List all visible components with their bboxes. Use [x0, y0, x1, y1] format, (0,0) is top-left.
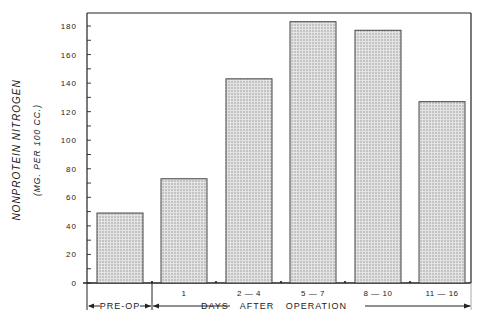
bar-2 — [226, 79, 272, 283]
y-tick-label: 120 — [61, 108, 77, 117]
x-category-label: 2 — 4 — [237, 289, 261, 298]
y-tick-label: 160 — [61, 51, 77, 60]
bar-0 — [97, 213, 143, 283]
bar-5 — [419, 102, 465, 283]
bar-4 — [355, 30, 401, 283]
x-tick-mark — [151, 281, 153, 283]
x-category-label: 5 — 7 — [301, 289, 325, 298]
x-tick-mark — [280, 281, 282, 283]
bar-chart: 020406080100120140160180 12 — 45 — 78 — … — [0, 0, 486, 325]
x-tick-mark — [215, 281, 217, 283]
y-axis-unit-label: (MG. PER 100 CC.) — [32, 104, 42, 196]
range-annotations: PRE-OPDAYS AFTER OPERATION — [87, 283, 471, 311]
bar-3 — [290, 22, 336, 283]
arrow-left-icon — [88, 304, 94, 309]
y-tick-label: 0 — [72, 279, 77, 288]
y-tick-label: 140 — [61, 79, 77, 88]
arrow-right-icon — [145, 304, 151, 309]
y-tick-label: 60 — [66, 193, 77, 202]
x-tick-mark — [344, 281, 346, 283]
y-tick-label: 20 — [66, 250, 77, 259]
y-axis-label: NONPROTEIN NITROGEN — [11, 79, 22, 220]
x-category-label: 1 — [182, 289, 187, 298]
y-tick-label: 40 — [66, 222, 77, 231]
y-tick-label: 100 — [61, 136, 77, 145]
y-tick-label: 80 — [66, 165, 77, 174]
range-label-preop: PRE-OP — [100, 301, 141, 311]
arrow-right-icon — [464, 304, 471, 309]
y-tick-label: 180 — [61, 22, 77, 31]
bar-1 — [161, 179, 207, 283]
x-axis-labels: 12 — 45 — 78 — 1011 — 16 — [182, 289, 459, 298]
range-label-days-after-operation: DAYS AFTER OPERATION — [201, 301, 347, 311]
x-category-label: 8 — 10 — [364, 289, 393, 298]
x-category-label: 11 — 16 — [425, 289, 458, 298]
y-axis-title: NONPROTEIN NITROGEN (MG. PER 100 CC.) — [11, 79, 42, 220]
x-tick-mark — [409, 281, 411, 283]
bars — [97, 22, 465, 283]
